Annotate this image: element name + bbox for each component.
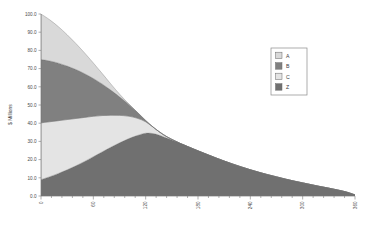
legend-label-a: A bbox=[286, 53, 290, 59]
x-tick-label: 240 bbox=[248, 201, 253, 209]
y-tick-label: 100.0 bbox=[25, 12, 37, 17]
legend-swatch-a bbox=[276, 52, 283, 59]
x-tick-label: 360 bbox=[353, 201, 358, 209]
y-tick-label: 90.0 bbox=[28, 30, 37, 35]
y-tick-label: 40.0 bbox=[28, 121, 37, 126]
y-tick-label: 30.0 bbox=[28, 139, 37, 144]
y-tick-label: 20.0 bbox=[28, 157, 37, 162]
legend-swatch-c bbox=[276, 73, 283, 80]
legend-swatch-b bbox=[276, 63, 283, 69]
x-tick-label: 60 bbox=[91, 201, 96, 207]
chart-container: 0.010.020.030.040.050.060.070.080.090.01… bbox=[0, 0, 366, 226]
y-tick-label: 80.0 bbox=[28, 48, 37, 53]
legend-label-c: C bbox=[286, 74, 290, 80]
legend-swatch-z bbox=[276, 84, 283, 91]
x-tick-label: 300 bbox=[300, 201, 305, 209]
y-axis-title: $ Millions bbox=[7, 104, 13, 125]
legend-label-z: Z bbox=[286, 84, 289, 90]
y-tick-label: 0.0 bbox=[30, 194, 37, 199]
y-tick-label: 50.0 bbox=[28, 103, 37, 108]
stacked-area-chart: 0.010.020.030.040.050.060.070.080.090.01… bbox=[0, 0, 366, 226]
y-tick-label: 70.0 bbox=[28, 66, 37, 71]
y-tick-label: 10.0 bbox=[28, 176, 37, 181]
x-tick-label: 120 bbox=[143, 201, 148, 209]
x-tick-label: 180 bbox=[196, 201, 201, 209]
legend-label-b: B bbox=[286, 63, 290, 69]
chart-legend: ABCZ bbox=[271, 48, 307, 95]
y-tick-label: 60.0 bbox=[28, 85, 37, 90]
x-tick-label: 0 bbox=[39, 201, 44, 204]
